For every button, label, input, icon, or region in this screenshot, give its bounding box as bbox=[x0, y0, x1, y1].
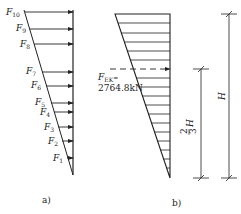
panel-a: F10 F9 F8 F7 F6 F5 F4 F3 F2 F1 a) bbox=[5, 7, 73, 205]
panel-a-caption: a) bbox=[42, 195, 51, 205]
force-label-f8: F8 bbox=[19, 39, 30, 50]
dimension-two-thirds-h-label: 2 3 H bbox=[179, 119, 198, 135]
force-label-f7: F7 bbox=[25, 66, 36, 77]
force-label-f4: F4 bbox=[39, 107, 50, 118]
force-label-f6: F6 bbox=[30, 80, 41, 91]
force-label-f9: F9 bbox=[15, 23, 26, 34]
panel-b: FEK= 2764.8kN 2 3 H H b) bbox=[97, 11, 237, 208]
force-label-f2: F2 bbox=[47, 136, 58, 147]
dimension-two-thirds-h bbox=[193, 66, 209, 181]
force-label-f1: F1 bbox=[52, 153, 63, 164]
svg-text:3: 3 bbox=[188, 128, 198, 134]
svg-text:H: H bbox=[185, 119, 195, 128]
panel-b-caption: b) bbox=[172, 198, 181, 208]
force-labels: F10 F9 F8 F7 F6 F5 F4 F3 F2 F1 bbox=[5, 7, 63, 164]
resultant-force-value: 2764.8kN bbox=[98, 83, 143, 93]
svg-text:H: H bbox=[217, 92, 227, 101]
resultant-force-label: FEK= bbox=[97, 72, 118, 83]
force-label-f3: F3 bbox=[43, 122, 54, 133]
force-envelope-line bbox=[24, 10, 73, 175]
dimension-full-h-label: H bbox=[217, 92, 227, 101]
force-label-f10: F10 bbox=[5, 7, 20, 18]
seismic-force-diagram: F10 F9 F8 F7 F6 F5 F4 F3 F2 F1 a) bbox=[0, 0, 241, 214]
